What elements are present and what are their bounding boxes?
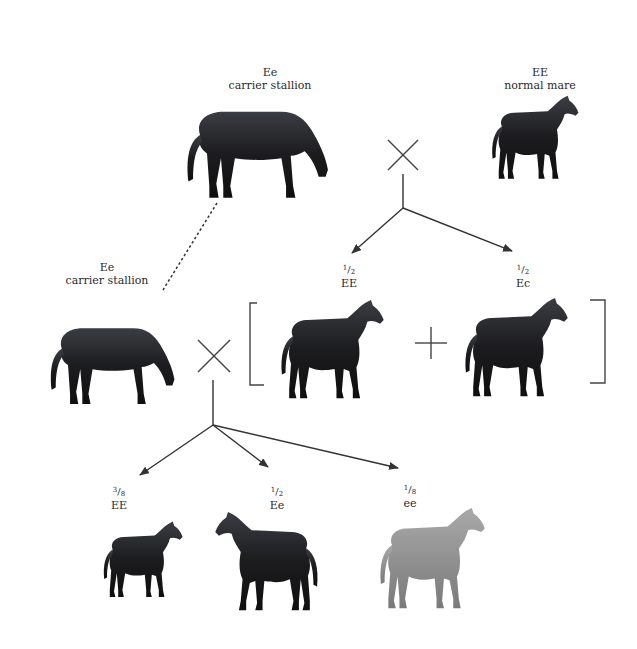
label-offspring-ee-gen1: 1/2 EE	[334, 262, 364, 290]
label-offspring-ec-gen1: 1/2 Ec	[508, 262, 538, 290]
horse-stallion-gen2	[38, 318, 186, 406]
fraction: 1/2	[262, 484, 292, 500]
cross-symbol-gen2	[198, 340, 230, 372]
genotype: Ec	[508, 278, 538, 290]
label-offspring-ee-het-gen2: 1/2 Ee	[262, 484, 292, 512]
label-offspring-ee-rec-gen2: 1/8 ee	[395, 482, 425, 510]
horse-offspring-ec-gen1	[456, 298, 574, 398]
fraction: 3/8	[104, 484, 134, 500]
cross-symbol-gen1	[388, 140, 418, 170]
description: carrier stallion	[52, 274, 162, 287]
plus-symbol	[415, 327, 447, 359]
label-offspring-ee-gen2: 3/8 EE	[104, 484, 134, 512]
horse-mare-top	[488, 88, 580, 188]
description: carrier stallion	[215, 79, 325, 92]
fraction: 1/2	[508, 262, 538, 278]
horse-offspring-ee-rec-gen2	[375, 508, 487, 610]
fraction: 1/8	[395, 482, 425, 498]
label-stallion-gen2: Ee carrier stallion	[52, 261, 162, 287]
right-bracket	[590, 300, 605, 383]
fraction: 1/2	[334, 262, 364, 278]
horse-offspring-ee-gen1	[266, 300, 396, 400]
genotype: Ee	[262, 500, 292, 512]
genotype: EE	[334, 278, 364, 290]
genotype: Ee	[52, 261, 162, 274]
left-bracket	[250, 303, 264, 385]
horse-offspring-ee-gen2	[100, 510, 184, 610]
genotype: EE	[490, 66, 590, 79]
horse-offspring-ee-het-gen2	[208, 512, 328, 612]
horse-stallion-top	[182, 100, 332, 200]
dotted-link	[163, 203, 217, 290]
genotype: Ee	[215, 66, 325, 79]
label-stallion-top: Ee carrier stallion	[215, 66, 325, 92]
